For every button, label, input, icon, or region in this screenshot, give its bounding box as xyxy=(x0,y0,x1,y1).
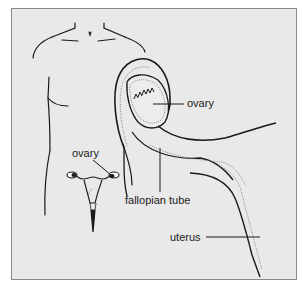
uterus-curve xyxy=(190,166,262,277)
anatomy-illustration xyxy=(0,0,303,288)
uterus-label: uterus xyxy=(170,232,201,243)
small-uterus-diagram xyxy=(67,160,119,232)
ovary-closeup-label: ovary xyxy=(187,98,214,109)
ovary-closeup xyxy=(115,59,276,196)
fallopian-tube-label: fallopian tube xyxy=(125,195,190,206)
ovary-small-label: ovary xyxy=(72,148,99,159)
torso-outline xyxy=(33,23,145,215)
